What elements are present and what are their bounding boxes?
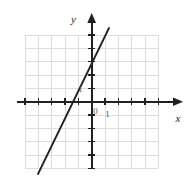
y-axis-label: y	[70, 13, 76, 25]
axis-arrowheads	[87, 13, 183, 106]
x-axis-label: x	[175, 112, 181, 124]
coordinate-plane-figure: y x 0 1 1	[0, 0, 190, 189]
graph-canvas: y x 0 1 1	[0, 0, 190, 189]
x-axis-unit-label: 1	[105, 109, 110, 119]
origin-label: 0	[93, 106, 98, 116]
x-axis-arrow-icon	[173, 97, 183, 106]
y-axis-unit-label: 1	[78, 84, 83, 94]
axes	[17, 19, 176, 169]
y-axis-arrow-icon	[87, 13, 96, 23]
